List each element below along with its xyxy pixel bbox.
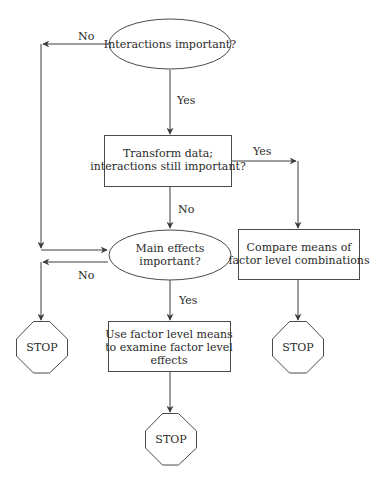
svg-text:Compare means of: Compare means of [247, 241, 353, 254]
svg-text:to examine factor level: to examine factor level [105, 341, 233, 354]
edge-transform-no: No [170, 187, 195, 228]
process-transform-data: Transform data; interactions still impor… [90, 136, 246, 187]
edge-label-no: No [178, 203, 195, 216]
edge-main-effects-no: No [41, 262, 108, 320]
edge-label-yes: Yes [176, 94, 196, 107]
edge-main-effects-yes: Yes [170, 280, 198, 320]
svg-text:STOP: STOP [282, 341, 314, 354]
svg-text:important?: important? [139, 255, 200, 268]
terminal-stop-right: STOP [273, 322, 324, 374]
process-compare-means: Compare means of factor level combinatio… [228, 230, 369, 280]
svg-text:Use factor level means: Use factor level means [105, 328, 233, 341]
decision-interactions-important: Interactions important? [104, 19, 236, 69]
edge-interactions-no: No [41, 30, 109, 250]
process-use-factor-level-means: Use factor level means to examine factor… [105, 322, 233, 372]
terminal-stop-left: STOP [17, 322, 68, 374]
edge-label-yes: Yes [178, 294, 198, 307]
svg-text:factor level combinations: factor level combinations [228, 254, 369, 267]
edge-label-no: No [78, 30, 95, 43]
edge-interactions-yes: Yes [170, 70, 196, 134]
svg-text:STOP: STOP [155, 433, 187, 446]
svg-text:Main effects: Main effects [136, 242, 205, 255]
edge-label-yes: Yes [252, 145, 272, 158]
svg-text:Interactions important?: Interactions important? [104, 38, 236, 51]
terminal-stop-bottom: STOP [146, 414, 197, 466]
edge-label-no: No [78, 269, 95, 282]
edge-transform-yes: Yes [232, 145, 298, 228]
flowchart-canvas: No Yes Yes No No Yes Interactions import… [0, 0, 378, 485]
svg-text:Transform data;: Transform data; [123, 147, 213, 160]
svg-text:interactions still important?: interactions still important? [90, 160, 246, 173]
decision-main-effects-important: Main effects important? [109, 230, 231, 280]
flowchart: No Yes Yes No No Yes Interactions import… [0, 0, 378, 485]
svg-text:effects: effects [150, 354, 187, 367]
svg-text:STOP: STOP [26, 341, 58, 354]
